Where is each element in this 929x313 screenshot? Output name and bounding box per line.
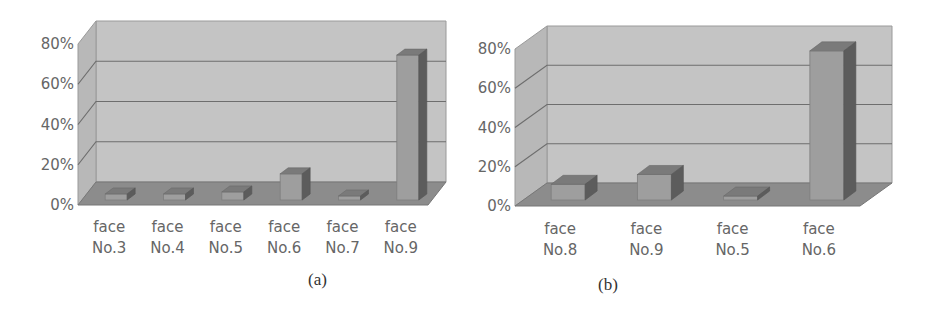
chart-a-plot: 0%20%40%60%80%faceNo.3faceNo.4faceNo.5fa… xyxy=(0,0,460,313)
x-tick-label: face xyxy=(268,218,300,236)
x-tick-label: No.4 xyxy=(150,239,184,257)
caption-b: (b) xyxy=(598,275,618,295)
x-tick-label: No.8 xyxy=(543,241,577,259)
y-tick-label: 80% xyxy=(41,35,74,53)
x-tick-label: face xyxy=(93,218,125,236)
x-tick-label: No.6 xyxy=(802,241,836,259)
y-tick-label: 20% xyxy=(478,158,511,176)
y-tick-label: 0% xyxy=(50,196,74,214)
chart-a: 0%20%40%60%80%faceNo.3faceNo.4faceNo.5fa… xyxy=(0,0,460,313)
y-tick-label: 20% xyxy=(41,156,74,174)
x-tick-label: face xyxy=(630,220,662,238)
x-tick-label: face xyxy=(385,218,417,236)
x-tick-label: No.9 xyxy=(629,241,663,259)
bar-face-no-9 xyxy=(397,49,427,200)
x-tick-label: face xyxy=(210,218,242,236)
x-tick-label: No.5 xyxy=(715,241,749,259)
x-tick-label: face xyxy=(803,220,835,238)
y-tick-label: 40% xyxy=(478,119,511,137)
bar-face-no-9 xyxy=(637,165,683,200)
x-tick-label: face xyxy=(152,218,184,236)
x-tick-label: No.9 xyxy=(384,239,418,257)
x-tick-label: No.7 xyxy=(325,239,359,257)
bar-face-no-8 xyxy=(551,175,597,200)
y-tick-label: 60% xyxy=(478,79,511,97)
bar-face-no-6 xyxy=(810,42,856,200)
y-tick-label: 0% xyxy=(487,197,511,215)
x-tick-label: face xyxy=(717,220,749,238)
x-tick-label: No.3 xyxy=(92,239,126,257)
caption-a: (a) xyxy=(308,270,327,290)
x-tick-label: No.6 xyxy=(267,239,301,257)
y-tick-label: 60% xyxy=(41,75,74,93)
x-tick-label: face xyxy=(327,218,359,236)
chart-b: 0%20%40%60%80%faceNo.8faceNo.9faceNo.5fa… xyxy=(460,0,929,313)
x-tick-label: face xyxy=(544,220,576,238)
x-tick-label: No.5 xyxy=(209,239,243,257)
y-tick-label: 80% xyxy=(478,40,511,58)
chart-b-plot: 0%20%40%60%80%faceNo.8faceNo.9faceNo.5fa… xyxy=(460,0,929,313)
bar-face-no-6 xyxy=(280,168,310,200)
y-tick-label: 40% xyxy=(41,116,74,134)
